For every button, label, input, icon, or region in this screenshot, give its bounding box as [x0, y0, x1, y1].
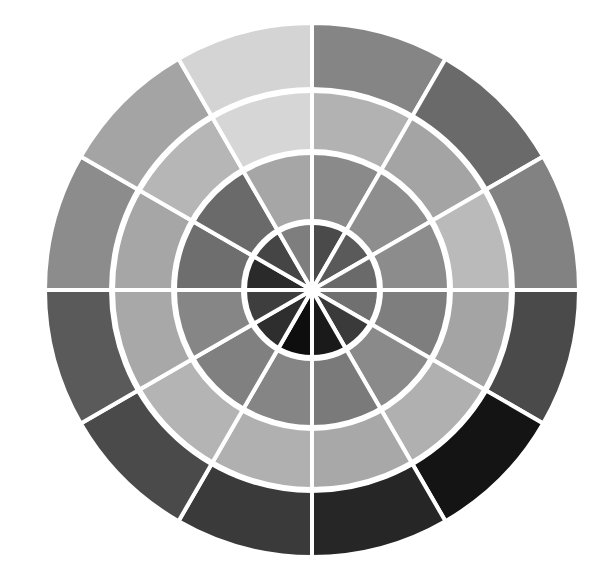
color-wheel-diagram: [0, 0, 599, 577]
